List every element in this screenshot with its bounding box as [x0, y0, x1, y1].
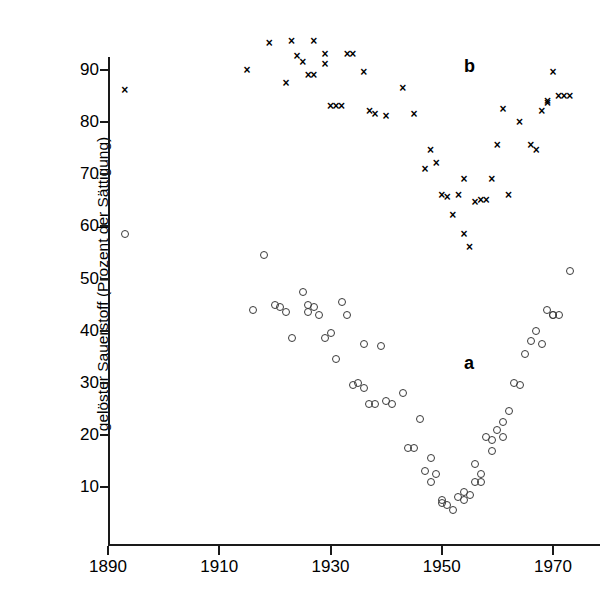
data-point-b	[336, 101, 347, 112]
data-point-a	[521, 350, 529, 358]
data-point-b	[442, 192, 453, 203]
data-point-a	[449, 506, 457, 514]
data-point-a	[499, 433, 507, 441]
data-point-a	[516, 381, 524, 389]
scatter-chart-figure: gelöster Sauerstoff (Prozent der Sättigu…	[0, 0, 600, 603]
data-point-a	[466, 491, 474, 499]
data-point-a	[493, 426, 501, 434]
data-point-a	[499, 418, 507, 426]
plot-area: b a	[108, 57, 600, 545]
data-point-b	[548, 67, 559, 78]
data-point-a	[532, 327, 540, 335]
data-point-a	[377, 342, 385, 350]
x-tick-label: 1950	[412, 558, 472, 575]
data-point-a	[315, 311, 323, 319]
data-point-b	[358, 67, 369, 78]
data-point-b	[381, 111, 392, 122]
data-point-b	[486, 174, 497, 185]
data-point-b	[397, 83, 408, 94]
data-point-b	[286, 36, 297, 47]
y-tick-label: 60	[51, 217, 99, 234]
data-point-b	[370, 109, 381, 120]
data-point-a	[327, 329, 335, 337]
x-tick-label: 1890	[78, 558, 138, 575]
data-point-b	[347, 49, 358, 60]
data-point-b	[264, 38, 275, 49]
data-point-b	[514, 117, 525, 128]
data-point-a	[477, 470, 485, 478]
data-point-a	[427, 478, 435, 486]
data-point-b	[425, 145, 436, 156]
data-point-b	[408, 109, 419, 120]
x-tick	[107, 546, 109, 555]
data-point-a	[427, 454, 435, 462]
series-label-b: b	[464, 57, 475, 75]
data-point-b	[319, 59, 330, 70]
x-tick-label: 1910	[189, 558, 249, 575]
data-point-b	[453, 190, 464, 201]
data-point-a	[488, 436, 496, 444]
data-point-a	[416, 415, 424, 423]
y-tick-label: 10	[51, 478, 99, 495]
data-point-b	[447, 210, 458, 221]
data-point-a	[371, 400, 379, 408]
data-point-a	[121, 230, 129, 238]
data-point-a	[477, 478, 485, 486]
data-point-b	[420, 164, 431, 175]
data-point-b	[431, 158, 442, 169]
data-point-a	[388, 400, 396, 408]
data-point-b	[542, 98, 553, 109]
data-point-a	[360, 384, 368, 392]
data-point-a	[421, 467, 429, 475]
data-point-b	[242, 65, 253, 76]
series-label-a: a	[464, 354, 474, 372]
data-point-b	[564, 91, 575, 102]
y-tick-label: 90	[51, 61, 99, 78]
data-point-a	[399, 389, 407, 397]
data-point-b	[119, 85, 130, 96]
data-point-b	[308, 70, 319, 81]
data-point-b	[308, 36, 319, 47]
data-point-a	[260, 251, 268, 259]
data-point-a	[332, 355, 340, 363]
data-point-b	[464, 242, 475, 253]
y-tick-label: 80	[51, 113, 99, 130]
y-tick-label: 20	[51, 426, 99, 443]
x-tick-label: 1970	[523, 558, 583, 575]
data-point-a	[310, 303, 318, 311]
x-tick	[552, 546, 554, 555]
data-point-b	[481, 195, 492, 206]
data-point-a	[505, 407, 513, 415]
data-point-a	[410, 444, 418, 452]
y-tick-label: 30	[51, 374, 99, 391]
data-point-a	[343, 311, 351, 319]
data-point-a	[338, 298, 346, 306]
data-point-a	[566, 267, 574, 275]
data-point-b	[297, 57, 308, 68]
data-point-b	[497, 104, 508, 115]
data-point-a	[299, 288, 307, 296]
data-point-b	[281, 78, 292, 89]
data-point-a	[432, 470, 440, 478]
data-point-a	[527, 337, 535, 345]
data-point-a	[538, 340, 546, 348]
x-tick	[441, 546, 443, 555]
data-point-a	[282, 308, 290, 316]
data-point-b	[492, 140, 503, 151]
data-point-a	[471, 460, 479, 468]
data-point-a	[360, 340, 368, 348]
data-point-a	[555, 311, 563, 319]
y-tick-label: 50	[51, 270, 99, 287]
x-tick	[330, 546, 332, 555]
x-tick	[218, 546, 220, 555]
data-point-b	[531, 145, 542, 156]
data-point-b	[503, 190, 514, 201]
data-point-a	[488, 447, 496, 455]
data-point-a	[288, 334, 296, 342]
x-tick-label: 1930	[301, 558, 361, 575]
data-point-a	[249, 306, 257, 314]
data-point-b	[459, 174, 470, 185]
y-tick-label: 70	[51, 165, 99, 182]
y-tick-label: 40	[51, 322, 99, 339]
data-point-b	[459, 229, 470, 240]
